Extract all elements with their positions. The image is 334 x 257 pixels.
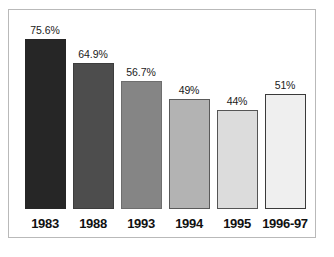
bar-category-label: 1994 [165,216,213,231]
bar-group: 51% [265,14,306,209]
bar-value-label: 56.7% [126,67,155,78]
bar-category-label: 1988 [69,216,117,231]
bar-group: 44% [217,14,258,209]
bar-rect [121,81,162,209]
bar-value-label: 75.6% [30,25,59,36]
bar-category-label: 1996-97 [261,216,309,231]
bar-rect [73,63,114,209]
figure-background: 75.6%198364.9%198856.7%199349%199444%199… [0,0,334,257]
bar-value-label: 51% [275,80,296,91]
bar-rect [217,110,258,209]
bar-value-label: 49% [179,85,200,96]
bar-group: 49% [169,14,210,209]
bar-category-label: 1995 [213,216,261,231]
bar-rect [25,39,66,209]
bar-rect [169,99,210,209]
bar-category-label: 1993 [117,216,165,231]
bar-rect [265,94,306,209]
bars-layer: 75.6%198364.9%198856.7%199349%199444%199… [9,10,315,237]
plot-area: 75.6%198364.9%198856.7%199349%199444%199… [9,10,315,237]
bar-group: 75.6% [25,14,66,209]
chart-frame: 75.6%198364.9%198856.7%199349%199444%199… [8,9,316,238]
bar-group: 56.7% [121,14,162,209]
bar-category-label: 1983 [21,216,69,231]
bar-group: 64.9% [73,14,114,209]
bar-value-label: 64.9% [78,49,107,60]
bar-value-label: 44% [227,96,248,107]
